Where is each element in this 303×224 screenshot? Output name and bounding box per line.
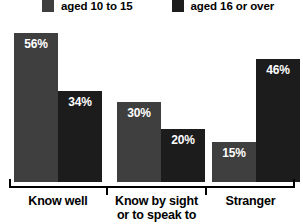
axis-tick-right-end <box>293 179 295 187</box>
bar-label-children-know-well: 56% <box>14 37 58 51</box>
bar-children-know-by-sight: 30% <box>117 102 161 182</box>
legend-label-children: Childrenaged 10 to 15 <box>61 0 133 12</box>
bar-label-children-know-by-sight: 30% <box>117 106 161 120</box>
bar-label-adults-stranger: 46% <box>256 63 300 77</box>
bar-adults-stranger: 46% <box>256 59 300 182</box>
legend-item-adults: Adultsaged 16 or over <box>172 0 275 22</box>
bar-group-stranger: 15% 46% <box>212 22 300 182</box>
category-label-know-by-sight: Know by sight or to speak to <box>107 194 206 222</box>
category-label-know-well: Know well <box>9 194 107 208</box>
bar-adults-know-by-sight: 20% <box>161 129 205 182</box>
chart-axis-bracket <box>0 182 303 194</box>
category-label-know-well-line1: Know well <box>28 194 87 208</box>
bar-group-know-by-sight: 30% 20% <box>117 22 205 182</box>
category-label-stranger: Stranger <box>206 194 295 208</box>
bar-children-know-well: 56% <box>14 33 58 182</box>
legend-swatch-children-icon <box>42 0 54 12</box>
bar-label-children-stranger: 15% <box>212 146 256 160</box>
bar-adults-know-well: 34% <box>58 91 102 182</box>
category-label-stranger-line1: Stranger <box>226 194 276 208</box>
legend-item-children: Childrenaged 10 to 15 <box>42 0 133 22</box>
chart-legend: Childrenaged 10 to 15 Adultsaged 16 or o… <box>0 0 303 22</box>
bar-group-know-well: 56% 34% <box>14 22 102 182</box>
axis-baseline <box>9 186 295 188</box>
category-label-know-by-sight-line1: Know by sight <box>115 194 198 208</box>
legend-label-adults-line2: aged 16 or over <box>191 0 275 12</box>
bar-label-adults-know-well: 34% <box>58 95 102 109</box>
legend-label-adults: Adultsaged 16 or over <box>191 0 275 12</box>
legend-label-children-line2: aged 10 to 15 <box>61 0 133 12</box>
bar-label-adults-know-by-sight: 20% <box>161 133 205 147</box>
legend-swatch-adults-icon <box>172 0 184 12</box>
chart-category-labels: Know well Know by sight or to speak to S… <box>0 194 303 224</box>
bar-children-stranger: 15% <box>212 142 256 182</box>
category-label-know-by-sight-line2: or to speak to <box>117 208 196 222</box>
axis-tick-left-end <box>9 179 11 187</box>
chart-plot-area: 56% 34% 30% 20% 15% 46% <box>0 22 303 182</box>
